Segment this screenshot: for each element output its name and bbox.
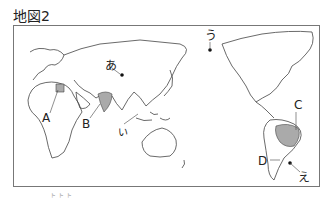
marker-a xyxy=(120,73,124,77)
africa-coast xyxy=(28,82,82,158)
label-e: え xyxy=(298,172,310,184)
label-a: あ xyxy=(105,60,117,72)
footnote: ト ト ト xyxy=(50,190,72,198)
europe-coast xyxy=(30,48,64,80)
label-u: う xyxy=(205,30,217,42)
world-map xyxy=(0,0,333,198)
new-zealand-coast xyxy=(182,160,185,168)
australia-coast xyxy=(142,128,176,157)
label-B: B xyxy=(82,118,90,130)
arabia-coast xyxy=(76,92,90,109)
label-C: C xyxy=(294,99,302,111)
label-i: い xyxy=(118,128,128,138)
north-america-coast xyxy=(222,31,313,102)
label-A: A xyxy=(42,112,50,124)
central-america-coast xyxy=(256,102,274,118)
asia-coast xyxy=(64,40,187,110)
india-shade xyxy=(98,92,112,112)
indonesia-coast xyxy=(136,112,170,121)
label-D: D xyxy=(258,155,267,167)
egypt-shade xyxy=(56,84,64,92)
